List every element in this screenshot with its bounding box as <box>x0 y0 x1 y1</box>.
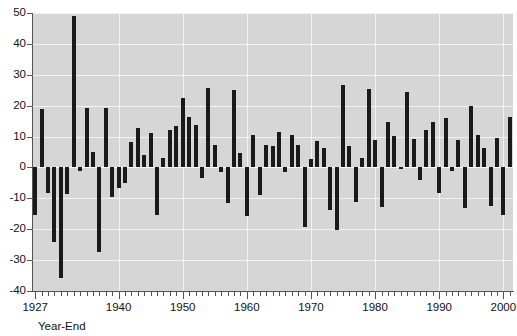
x-tick-mark-1944 <box>144 292 145 296</box>
bar-1969 <box>303 167 307 227</box>
bar-1966 <box>283 167 287 172</box>
bar-1947 <box>161 158 165 167</box>
bar-1935 <box>85 108 89 167</box>
x-tick-mark-1962 <box>260 292 261 296</box>
bar-1970 <box>309 159 313 168</box>
x-tick-mark-1933 <box>74 292 75 296</box>
x-tick-mark-1972 <box>324 292 325 296</box>
y-tick-mark-30 <box>27 75 32 76</box>
bar-1983 <box>392 136 396 167</box>
x-tick-mark-1966 <box>285 292 286 296</box>
x-tick-mark-1934 <box>80 292 81 296</box>
y-tick-mark-40 <box>27 44 32 45</box>
x-tick-mark-1957 <box>228 292 229 296</box>
y-tick-mark-20 <box>27 106 32 107</box>
x-tick-mark-1930 <box>54 292 55 296</box>
x-tick-label-1960: 1960 <box>234 301 260 313</box>
bar-1957 <box>226 167 230 203</box>
x-tick-label-1927: 1927 <box>22 301 48 313</box>
x-tick-label-1940: 1940 <box>106 301 132 313</box>
x-tick-mark-1993 <box>458 292 459 296</box>
x-tick-mark-1938 <box>106 292 107 296</box>
bar-1964 <box>271 146 275 168</box>
bar-1951 <box>187 117 191 167</box>
bar-1959 <box>238 153 242 168</box>
bar-1968 <box>296 145 300 168</box>
bar-1979 <box>367 89 371 168</box>
x-tick-mark-1981 <box>382 292 383 296</box>
bar-1950 <box>181 98 185 168</box>
y-tick-label-30: 30 <box>13 69 26 80</box>
y-tick-mark--20 <box>27 229 32 230</box>
x-tick-label-2000: 2000 <box>491 301 517 313</box>
x-tick-mark-1967 <box>292 292 293 296</box>
x-tick-label-1970: 1970 <box>298 301 324 313</box>
x-tick-mark-1976 <box>349 292 350 296</box>
y-tick-label-50: 50 <box>13 7 26 18</box>
x-tick-mark-1995 <box>471 292 472 296</box>
x-tick-mark-1954 <box>208 292 209 296</box>
y-tick-mark--10 <box>27 198 32 199</box>
x-tick-mark-1965 <box>279 292 280 296</box>
bar-1960 <box>245 167 249 216</box>
x-tick-mark-1983 <box>394 292 395 296</box>
bar-1986 <box>412 139 416 168</box>
x-tick-mark-1970 <box>311 292 312 299</box>
annual-returns-bar-chart: 50403020100-10-20-30-40 1927194019501960… <box>0 0 517 336</box>
bar-1932 <box>65 167 69 194</box>
x-tick-mark-1986 <box>414 292 415 296</box>
y-tick-mark--40 <box>27 291 32 292</box>
bar-1984 <box>399 167 403 169</box>
x-tick-mark-1996 <box>478 292 479 296</box>
x-tick-mark-1939 <box>112 292 113 296</box>
x-tick-mark-1951 <box>189 292 190 296</box>
bar-1975 <box>341 85 345 167</box>
bar-1956 <box>219 167 223 171</box>
x-tick-mark-1927 <box>35 292 36 299</box>
x-tick-mark-1988 <box>426 292 427 296</box>
x-tick-mark-1928 <box>42 292 43 296</box>
x-tick-mark-1968 <box>298 292 299 296</box>
x-tick-mark-1990 <box>439 292 440 299</box>
x-tick-mark-1958 <box>234 292 235 296</box>
x-tick-mark-1998 <box>491 292 492 296</box>
bar-1989 <box>431 122 435 168</box>
bar-1980 <box>373 140 377 168</box>
x-tick-mark-1947 <box>163 292 164 296</box>
x-tick-label-1980: 1980 <box>362 301 388 313</box>
x-tick-mark-1936 <box>93 292 94 296</box>
bar-1995 <box>469 106 473 168</box>
bar-1993 <box>456 140 460 167</box>
x-tick-mark-1994 <box>465 292 466 296</box>
x-tick-mark-1932 <box>67 292 68 296</box>
bar-1981 <box>380 167 384 207</box>
y-tick-label--10: -10 <box>9 192 26 203</box>
bar-1955 <box>213 145 217 167</box>
bar-1939 <box>110 167 114 197</box>
bar-1972 <box>322 148 326 167</box>
x-tick-mark-2001 <box>510 292 511 296</box>
bar-1999 <box>495 138 499 167</box>
bar-1977 <box>354 167 358 202</box>
bar-1936 <box>91 152 95 167</box>
bar-1992 <box>450 167 454 170</box>
bar-1987 <box>418 167 422 180</box>
x-tick-mark-1953 <box>202 292 203 296</box>
x-tick-mark-1964 <box>273 292 274 296</box>
x-tick-mark-1935 <box>87 292 88 296</box>
bar-1965 <box>277 132 281 167</box>
bar-1988 <box>424 130 428 167</box>
bar-1996 <box>476 135 480 167</box>
bar-1962 <box>258 167 262 195</box>
x-tick-mark-1949 <box>176 292 177 296</box>
y-tick-mark-0 <box>27 167 32 168</box>
bar-1985 <box>405 92 409 168</box>
bar-1929 <box>46 167 50 192</box>
bar-1963 <box>264 145 268 167</box>
x-tick-mark-1985 <box>407 292 408 296</box>
x-tick-mark-1946 <box>157 292 158 296</box>
bar-1978 <box>360 158 364 167</box>
x-tick-mark-1952 <box>196 292 197 296</box>
x-tick-mark-1950 <box>183 292 184 299</box>
x-tick-mark-1989 <box>433 292 434 296</box>
